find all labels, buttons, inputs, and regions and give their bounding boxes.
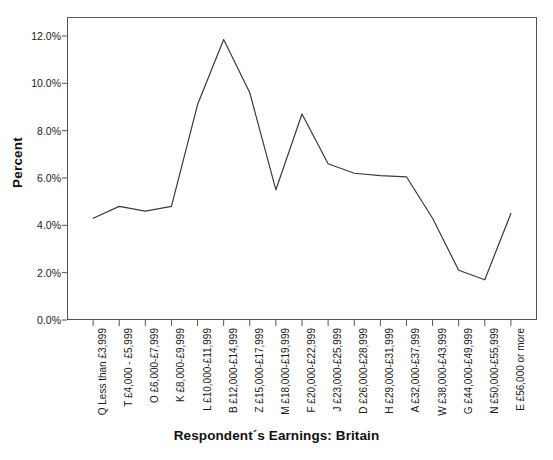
- x-tick-label: G £44,000-£49,999: [463, 328, 474, 414]
- y-tick-label: 12.0%: [15, 30, 61, 42]
- x-tick-label: E £56,000 or more: [515, 328, 526, 411]
- y-tick-label: 2.0%: [15, 267, 61, 279]
- x-tick-label: L £10,000-£11,999: [202, 328, 213, 411]
- x-tick-label: T £4,000 - £5,999: [123, 328, 134, 407]
- x-tick-label: W £38,000-£43,999: [437, 328, 448, 416]
- x-tick-label: N £50,000-£55,999: [489, 328, 500, 414]
- x-tick-label: D £26,000-£28,999: [358, 328, 369, 414]
- y-tick-label: 0.0%: [15, 314, 61, 326]
- x-tick-label: O £6,000-£7,999: [149, 328, 160, 403]
- x-tick-label: J £23,000-£25,999: [332, 328, 343, 411]
- x-tick-label: Z £15,000-£17,999: [254, 328, 265, 413]
- x-axis-title: Respondent´s Earnings: Britain: [0, 428, 553, 443]
- line-chart: Percent 0.0%2.0%4.0%6.0%8.0%10.0%12.0% Q…: [0, 0, 553, 460]
- y-tick-label: 4.0%: [15, 219, 61, 231]
- x-tick-label: M £18,000-£19,999: [280, 328, 291, 415]
- x-tick-label: F £20,000-£22,999: [306, 328, 317, 413]
- x-tick-label: B £12,000-£14,999: [228, 328, 239, 413]
- y-tick-label: 10.0%: [15, 77, 61, 89]
- y-axis-tick-labels: 0.0%2.0%4.0%6.0%8.0%10.0%12.0%: [8, 0, 61, 460]
- x-tick-label: H £29,000-£31,999: [384, 328, 395, 414]
- x-tick-label: K £8,000-£9,999: [175, 328, 186, 402]
- y-tick-label: 8.0%: [15, 125, 61, 137]
- x-tick-label: Q Less than £3,999: [97, 328, 108, 415]
- y-tick-label: 6.0%: [15, 172, 61, 184]
- plot-area: [67, 17, 537, 320]
- x-tick-label: A £32,000-£37,999: [410, 328, 421, 413]
